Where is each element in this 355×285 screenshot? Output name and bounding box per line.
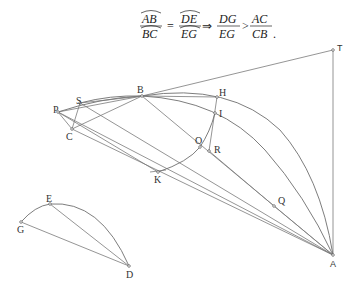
label-b: B <box>137 84 144 95</box>
point-r <box>208 150 211 153</box>
point-d <box>128 265 131 268</box>
point-t <box>332 49 335 52</box>
line-cb <box>72 96 142 129</box>
label-o: O <box>195 135 202 146</box>
line-gd <box>21 222 129 266</box>
geometry-figure: T B H I S P C O R K Q A E G D <box>0 0 355 285</box>
line-pc <box>58 112 72 129</box>
label-t: T <box>337 43 343 53</box>
label-a: A <box>330 259 336 269</box>
label-s: S <box>76 95 82 106</box>
line-bt <box>142 50 333 96</box>
point-k <box>157 171 160 174</box>
label-h: H <box>219 87 226 98</box>
point-g <box>20 221 23 224</box>
point-i <box>214 112 217 115</box>
point-b <box>141 95 144 98</box>
line-hr <box>209 97 217 151</box>
arc-koi <box>158 113 215 172</box>
point-o <box>199 146 202 149</box>
line-sa <box>80 103 333 255</box>
point-h <box>216 96 219 99</box>
point-c <box>71 128 74 131</box>
arc-ged <box>21 204 129 266</box>
line-rq <box>209 151 274 206</box>
label-q: Q <box>278 195 286 206</box>
label-g: G <box>17 224 24 235</box>
label-r: R <box>214 144 221 155</box>
point-a <box>332 254 335 257</box>
line-pk <box>58 112 158 172</box>
point-q <box>273 205 276 208</box>
label-e: E <box>46 193 52 204</box>
label-d: D <box>126 269 133 280</box>
label-p: P <box>53 104 59 115</box>
label-k: K <box>154 174 162 185</box>
label-c: C <box>66 131 73 142</box>
label-i: I <box>219 108 222 119</box>
